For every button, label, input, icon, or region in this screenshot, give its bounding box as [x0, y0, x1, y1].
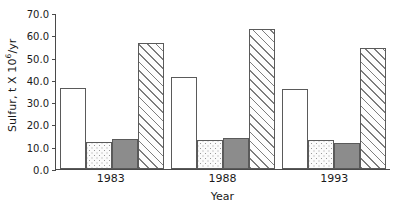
y-axis-tick-mark — [52, 148, 56, 149]
y-axis-tick-mark — [52, 14, 56, 15]
bar-dotted-1993 — [308, 140, 334, 169]
bar-dotted-1988 — [197, 140, 223, 169]
x-axis-tick-label: 1988 — [167, 172, 279, 188]
y-axis-tick-label: 20.0 — [27, 120, 49, 131]
bar-open-1988 — [171, 77, 197, 169]
plot-area — [55, 14, 390, 170]
bar-hatch-1983 — [138, 43, 164, 169]
bar-group — [167, 14, 278, 169]
y-axis-tick-label: 50.0 — [27, 53, 49, 64]
x-axis-tick-labels: 198319881993 — [55, 172, 390, 188]
bar-group — [56, 14, 167, 169]
bar-hatch-1988 — [249, 29, 275, 169]
x-axis-title: Year — [55, 190, 390, 203]
bar-dotted-1983 — [86, 142, 112, 169]
bar-open-1993 — [282, 89, 308, 169]
x-axis-tick-label: 1983 — [55, 172, 167, 188]
y-axis-tick-label: 0.0 — [33, 165, 49, 176]
bar-open-1983 — [60, 88, 86, 169]
y-axis-tick-label: 70.0 — [27, 9, 49, 20]
y-axis-tick-mark — [52, 36, 56, 37]
y-axis-tick-label: 10.0 — [27, 142, 49, 153]
y-axis-tick-labels: 0.010.020.030.040.050.060.070.0 — [18, 14, 52, 170]
bar-hatch-1993 — [360, 48, 386, 169]
y-axis-tick-label: 40.0 — [27, 75, 49, 86]
bar-solid-1988 — [223, 138, 249, 169]
bar-solid-1993 — [334, 143, 360, 169]
y-axis-tick-mark — [52, 103, 56, 104]
y-axis-tick-mark — [52, 125, 56, 126]
bar-group — [279, 14, 390, 169]
bar-groups — [56, 14, 390, 169]
y-axis-tick-label: 30.0 — [27, 98, 49, 109]
y-axis-tick-mark — [52, 59, 56, 60]
y-axis-tick-label: 60.0 — [27, 31, 49, 42]
y-axis-tick-mark — [52, 81, 56, 82]
bar-solid-1983 — [112, 139, 138, 169]
y-axis-tick-mark — [52, 170, 56, 171]
x-axis-tick-label: 1993 — [278, 172, 390, 188]
sulfur-bar-chart: Sulfur, t X 106/yr 0.010.020.030.040.050… — [0, 0, 398, 214]
